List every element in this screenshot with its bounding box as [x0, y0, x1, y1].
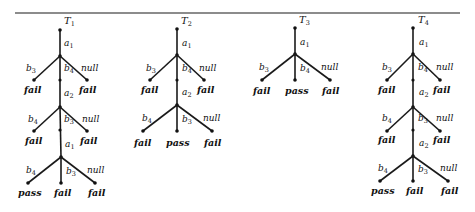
leaf-node: [93, 181, 97, 185]
input-label: a2: [182, 87, 192, 99]
verdict-leaf: fail: [133, 137, 152, 148]
leaf-node: [438, 78, 442, 82]
leaf-node: [32, 129, 36, 133]
verdict-leaf: fail: [87, 187, 106, 198]
node: [175, 27, 179, 31]
tree-title: T2: [181, 15, 192, 28]
branch-label: null: [199, 63, 216, 73]
verdict-leaf: fail: [432, 134, 451, 145]
node: [58, 128, 61, 131]
input-label: a1: [300, 37, 310, 49]
leaf-node: [85, 78, 89, 82]
tree-title: T4: [418, 14, 429, 27]
verdict-leaf: fail: [196, 84, 215, 95]
tree-t2: T2 a1 b3 b4 null fail fail a2 b4 b3 null…: [133, 15, 222, 148]
leaf-node: [328, 78, 332, 82]
tree-t3: T3 a1 b3 b4 null fail pass fail: [252, 14, 340, 96]
leaf-node: [148, 78, 152, 82]
verdict-leaf: pass: [285, 85, 309, 96]
test-trees-diagram: T1 a1 b3 b4 null fail fail a2 b4 b3 null…: [0, 0, 475, 212]
verdict-leaf: fail: [79, 135, 98, 146]
leaf-node: [210, 129, 214, 133]
branch-label: b4: [142, 113, 152, 125]
input-label: a2: [419, 138, 429, 150]
leaf-node: [260, 78, 264, 82]
input-label: a1: [182, 38, 192, 50]
branch-label: null: [440, 163, 457, 173]
branch-label: b4: [378, 163, 388, 175]
leaf-node: [411, 179, 415, 183]
leaf-node: [446, 179, 450, 183]
leaf-node: [385, 129, 389, 133]
branch-label: b4: [418, 62, 428, 74]
tree-title: T1: [64, 15, 75, 28]
input-label: a1: [419, 37, 429, 49]
leaf-node: [202, 78, 206, 82]
leaf-node: [438, 129, 442, 133]
node: [411, 128, 414, 131]
node: [411, 26, 415, 30]
node: [411, 78, 414, 81]
branch-label: null: [87, 165, 104, 175]
branch-label: b3: [418, 113, 428, 125]
input-label: a1: [65, 139, 75, 151]
node: [175, 78, 178, 81]
leaf-node: [378, 179, 382, 183]
branch-label: null: [203, 113, 220, 123]
verdict-leaf: fail: [432, 84, 451, 95]
tree-t1: T1 a1 b3 b4 null fail fail a2 b4 b3 null…: [18, 15, 106, 198]
branch-label: b3: [146, 63, 156, 75]
branch-label: b3: [382, 62, 392, 74]
node: [293, 26, 297, 30]
verdict-leaf: fail: [405, 185, 424, 196]
verdict-leaf: pass: [166, 137, 190, 148]
input-label: a1: [64, 38, 74, 50]
leaf-node: [32, 78, 36, 82]
leaf-node: [26, 181, 30, 185]
verdict-leaf: fail: [377, 84, 396, 95]
branch-label: b4: [64, 63, 74, 75]
branch-label: b3: [26, 63, 36, 75]
tree-title: T3: [299, 14, 310, 27]
branch-label: b4: [28, 114, 38, 126]
verdict-leaf: fail: [203, 137, 222, 148]
input-label: a2: [64, 88, 74, 100]
branch-label: null: [436, 62, 453, 72]
branch-label: null: [81, 63, 98, 73]
verdict-leaf: fail: [53, 187, 72, 198]
branch-label: b3: [64, 114, 74, 126]
leaf-node: [175, 129, 179, 133]
branch-label: b3: [259, 62, 269, 74]
verdict-leaf: fail: [440, 185, 459, 196]
tree-t4: T4 a1 b3 b4 null fail fail a2 b4 b3 null…: [371, 14, 459, 196]
verdict-leaf: fail: [23, 84, 42, 95]
leaf-node: [59, 181, 63, 185]
verdict-leaf: fail: [252, 85, 271, 96]
verdict-leaf: fail: [140, 84, 159, 95]
branch-label: null: [436, 113, 453, 123]
verdict-leaf: pass: [18, 187, 42, 198]
branch-label: b4: [182, 63, 192, 75]
branch-label: null: [321, 62, 338, 72]
node: [58, 28, 62, 32]
leaf-node: [385, 78, 389, 82]
branch-label: null: [82, 114, 99, 124]
branch-label: b4: [382, 113, 392, 125]
verdict-leaf: fail: [377, 134, 396, 145]
verdict-leaf: fail: [78, 84, 97, 95]
edge-branch: [60, 107, 61, 157]
branch-label: b4: [26, 165, 36, 177]
verdict-leaf: fail: [24, 135, 43, 146]
verdict-leaf: pass: [371, 185, 395, 196]
edge-branch: [34, 56, 60, 80]
leaf-node: [85, 129, 89, 133]
leaf-node: [293, 78, 297, 82]
leaf-node: [141, 129, 145, 133]
verdict-leaf: fail: [321, 85, 340, 96]
node: [58, 78, 61, 81]
input-label: a2: [419, 87, 429, 99]
